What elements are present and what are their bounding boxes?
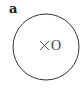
diagram-canvas: O xyxy=(0,0,81,90)
origin-label: O xyxy=(51,38,61,53)
cross-icon xyxy=(40,41,49,50)
